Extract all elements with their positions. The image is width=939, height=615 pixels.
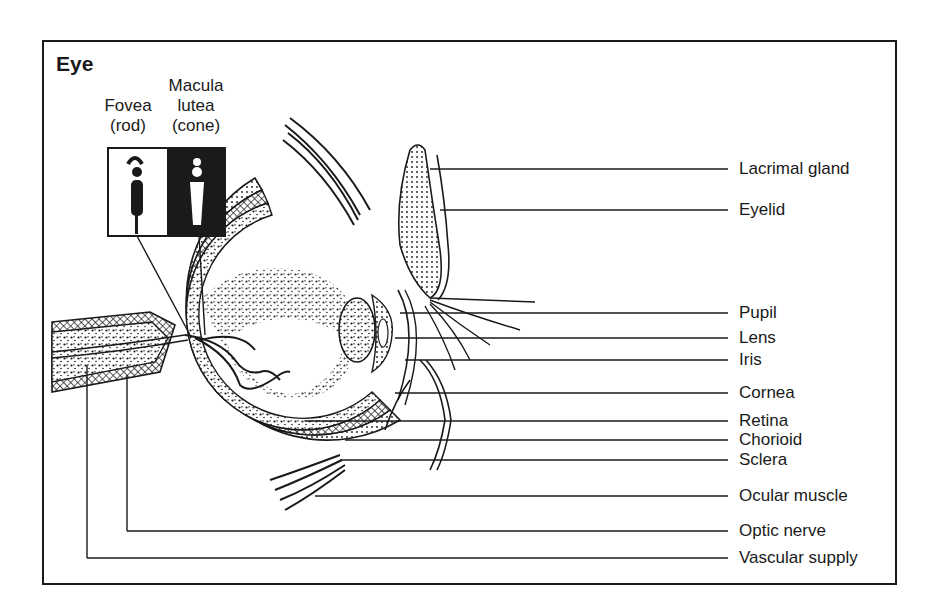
label-pupil: Pupil [739,303,777,323]
label-cornea: Cornea [739,383,795,403]
label-retina: Retina [739,411,788,431]
label-lens: Lens [739,328,776,348]
optic-nerve [52,312,188,392]
eyelid-lacrimal [399,145,535,370]
label-lacrimal-gland: Lacrimal gland [739,159,850,179]
label-sclera: Sclera [739,450,787,470]
label-vascular-supply: Vascular supply [739,548,858,568]
label-iris: Iris [739,350,762,370]
eye-diagram: Eye Fovea (rod) Macula lutea (cone) [0,0,939,615]
label-optic-nerve: Optic nerve [739,521,826,541]
label-chorioid: Chorioid [739,430,802,450]
label-eyelid: Eyelid [739,200,785,220]
upper-ocular-muscle [283,118,370,225]
label-ocular-muscle: Ocular muscle [739,486,848,506]
lower-ocular-muscle [270,455,345,510]
eyelashes [425,298,535,370]
